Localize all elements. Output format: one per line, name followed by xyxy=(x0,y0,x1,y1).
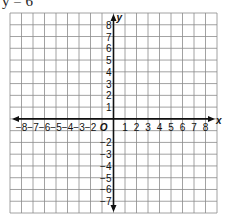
x-tick-label: 1 xyxy=(122,122,128,133)
y-tick-label: −3 xyxy=(100,149,112,160)
x-tick-label: −4 xyxy=(62,122,74,133)
y-tick-label: 1 xyxy=(106,102,112,113)
x-tick-label: 5 xyxy=(168,122,174,133)
x-tick-label: 8 xyxy=(203,122,209,133)
y-tick-label: 2 xyxy=(106,90,112,101)
x-tick-label: 4 xyxy=(157,122,163,133)
y-tick-label: 3 xyxy=(106,79,112,90)
y-tick-label: −7 xyxy=(100,196,112,207)
x-axis-arrow-right-icon xyxy=(208,116,215,122)
y-tick-label: −5 xyxy=(100,173,112,184)
y-tick-label: −4 xyxy=(100,161,112,172)
x-tick-label: −7 xyxy=(27,122,39,133)
x-tick-label: −8 xyxy=(16,122,28,133)
coordinate-plane: −8−7−6−5−4−3−21234567887654321−2−3−4−5−6… xyxy=(0,0,225,218)
x-tick-label: 2 xyxy=(134,122,140,133)
x-tick-label: −3 xyxy=(73,122,85,133)
y-tick-label: −2 xyxy=(100,137,112,148)
x-tick-label: −6 xyxy=(39,122,51,133)
y-tick-label: 8 xyxy=(106,20,112,31)
x-tick-label: 7 xyxy=(191,122,197,133)
x-tick-label: 6 xyxy=(180,122,186,133)
x-tick-label: −5 xyxy=(50,122,62,133)
y-tick-label: 5 xyxy=(106,55,112,66)
y-axis-label: y xyxy=(116,12,123,23)
y-tick-label: −6 xyxy=(100,184,112,195)
axes xyxy=(12,14,215,212)
y-tick-label: 4 xyxy=(106,67,112,78)
x-tick-label: 3 xyxy=(145,122,151,133)
x-axis-label: x xyxy=(215,115,222,126)
y-tick-label: 6 xyxy=(106,43,112,54)
y-tick-label: 7 xyxy=(106,32,112,43)
x-tick-label: −2 xyxy=(85,122,97,133)
origin-label: O xyxy=(100,122,108,133)
